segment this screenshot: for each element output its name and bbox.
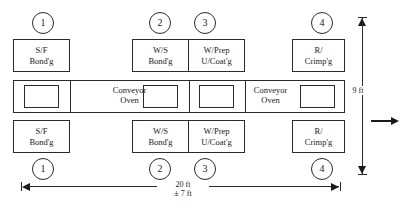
station-label-line2: Bond'g [148, 56, 172, 66]
station-tag-top-2: 2 [149, 12, 171, 34]
height-dim-label: 9 ft [345, 86, 371, 95]
height-dim-cap-bottom [358, 174, 367, 175]
station-label-line1: W/Prep [204, 45, 230, 55]
station-tag-bottom-1: 1 [32, 158, 54, 180]
station-label-line1: R/ [314, 126, 322, 136]
oven-label-line2: Oven [240, 95, 301, 105]
width-dim-cap-right [340, 182, 341, 191]
flow-arrow-shaft [371, 120, 393, 122]
station-tag-bottom-2: 2 [149, 158, 171, 180]
station-tag-label: 3 [203, 164, 208, 174]
station-tag-top-4: 4 [311, 12, 333, 34]
station-label-line1: S/F [36, 45, 48, 55]
conveyor-cell-4 [300, 85, 335, 108]
layout-diagram: 1 2 3 4 S/F Bond'g W/S Bond'g W/Prep U/C… [0, 0, 406, 214]
station-tag-bottom-4: 4 [311, 158, 333, 180]
conveyor-cell-1 [24, 85, 59, 108]
width-dim-arrow-right-icon [331, 183, 339, 191]
width-dim-label-tolerance: ± 7 ft [158, 189, 208, 198]
conveyor-cell-3 [199, 85, 234, 108]
conveyor-oven-label-left: Conveyor Oven [79, 85, 180, 105]
station-box-top-1: S/F Bond'g [13, 39, 70, 72]
station-box-bottom-3: W/Prep U/Coat'g [188, 120, 245, 153]
station-label-line1: W/S [153, 45, 168, 55]
station-tag-label: 4 [320, 164, 325, 174]
band-divider-mid-left [189, 80, 190, 113]
station-label-line1: W/Prep [204, 126, 230, 136]
station-box-bottom-4: R/ Crimp'g [292, 120, 345, 153]
width-dim-label-main: 20 ft [158, 180, 208, 189]
station-tag-top-1: 1 [32, 12, 54, 34]
station-box-top-4: R/ Crimp'g [292, 39, 345, 72]
station-label-line2: U/Coat'g [201, 56, 231, 66]
width-dim-arrow-left-icon [22, 183, 30, 191]
oven-label-line1: Conveyor [79, 85, 180, 95]
oven-label-line2: Oven [79, 95, 180, 105]
station-tag-label: 1 [41, 164, 46, 174]
station-box-bottom-1: S/F Bond'g [13, 120, 70, 153]
station-label-line2: Bond'g [29, 56, 53, 66]
station-label-line1: W/S [153, 126, 168, 136]
station-label-line2: U/Coat'g [201, 137, 231, 147]
oven-label-line1: Conveyor [240, 85, 301, 95]
height-dim-arrow-bottom-icon [358, 166, 366, 174]
station-label-line2: Bond'g [148, 137, 172, 147]
station-tag-label: 3 [203, 18, 208, 28]
station-box-top-3: W/Prep U/Coat'g [188, 39, 245, 72]
station-label-line2: Bond'g [29, 137, 53, 147]
flow-arrow-right-icon [391, 117, 399, 125]
station-tag-label: 2 [158, 164, 163, 174]
conveyor-oven-label-right: Conveyor Oven [240, 85, 301, 105]
station-box-top-2: W/S Bond'g [132, 39, 189, 72]
station-tag-label: 4 [320, 18, 325, 28]
station-tag-label: 2 [158, 18, 163, 28]
height-dim-label-text: 9 ft [346, 86, 370, 95]
width-dim-label: 20 ft ± 7 ft [157, 180, 209, 198]
station-label-line1: R/ [314, 45, 322, 55]
station-tag-top-3: 3 [194, 12, 216, 34]
station-label-line2: Crimp'g [305, 56, 333, 66]
station-label-line2: Crimp'g [305, 137, 333, 147]
station-tag-bottom-3: 3 [194, 158, 216, 180]
station-box-bottom-2: W/S Bond'g [132, 120, 189, 153]
band-divider-left [70, 80, 71, 113]
station-tag-label: 1 [41, 18, 46, 28]
height-dim-line [362, 18, 363, 174]
station-label-line1: S/F [36, 126, 48, 136]
